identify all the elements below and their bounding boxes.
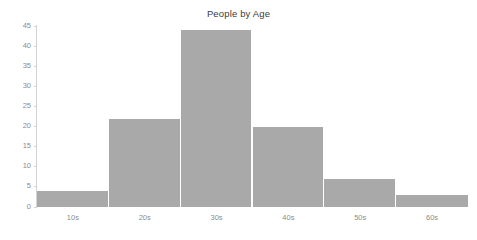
- x-axis-tick-label: 20s: [120, 212, 170, 223]
- y-axis-tick-label: 40: [23, 41, 31, 51]
- x-axis-tick-label: 60s: [407, 212, 457, 223]
- bar: [37, 191, 109, 207]
- y-axis-tick-label: 5: [27, 181, 31, 191]
- plot-area: [37, 26, 468, 207]
- y-axis-tick-label: 0: [27, 202, 31, 212]
- y-axis-tick-label: 10: [23, 161, 31, 171]
- y-axis-tick-label: 45: [23, 21, 31, 31]
- x-axis-tick-label: 50s: [335, 212, 385, 223]
- bar: [396, 195, 468, 207]
- chart-title: People by Age: [0, 8, 477, 19]
- bar: [109, 119, 181, 207]
- y-axis-tick-label: 15: [23, 141, 31, 151]
- chart-container: People by Age 051015202530354045 10s20s3…: [0, 0, 477, 240]
- y-axis-tick-label: 35: [23, 61, 31, 71]
- bar: [324, 179, 396, 207]
- x-axis-tick-label: 10s: [48, 212, 98, 223]
- y-axis-tick-label: 20: [23, 121, 31, 131]
- bar: [253, 127, 325, 207]
- y-axis-tick-label: 25: [23, 101, 31, 111]
- x-axis-tick-label: 40s: [263, 212, 313, 223]
- x-axis-tick-label: 30s: [192, 212, 242, 223]
- y-axis-tick-label: 30: [23, 81, 31, 91]
- bar: [181, 30, 253, 207]
